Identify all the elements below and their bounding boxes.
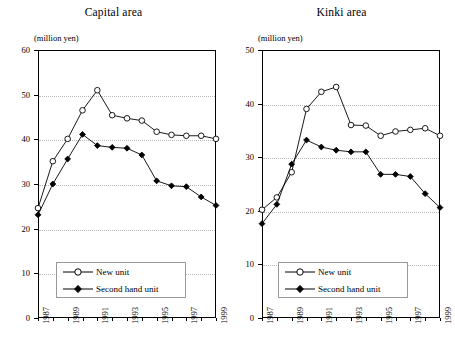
data-point-filled-diamond xyxy=(139,152,145,158)
series-layer-kinki-area xyxy=(228,0,455,352)
data-point-open-circle xyxy=(169,132,175,138)
data-point-open-circle xyxy=(408,127,414,133)
data-point-filled-diamond xyxy=(304,137,310,143)
data-point-open-circle xyxy=(259,207,265,213)
legend-label-second-hand-unit: Second hand unit xyxy=(318,284,381,294)
data-point-open-circle xyxy=(437,133,443,139)
chart-panel-kinki-area: Kinki area (million yen) 010203040501987… xyxy=(228,0,455,352)
data-point-filled-diamond xyxy=(318,144,324,150)
data-point-filled-diamond xyxy=(393,171,399,177)
data-point-open-circle xyxy=(213,136,219,142)
data-point-filled-diamond xyxy=(154,178,160,184)
data-point-open-circle xyxy=(154,129,160,135)
data-point-filled-diamond xyxy=(109,144,115,150)
chart-panel-capital-area: Capital area (million yen) 0102030405060… xyxy=(0,0,227,352)
data-point-open-circle xyxy=(80,108,86,114)
legend-kinki-area: New unit Second hand unit xyxy=(278,262,408,298)
series-layer-capital-area xyxy=(0,0,227,352)
legend-label-new-unit: New unit xyxy=(318,267,351,277)
open-circle-marker-icon xyxy=(63,266,93,278)
legend-item-new-unit[interactable]: New unit xyxy=(279,263,407,280)
data-point-filled-diamond xyxy=(50,181,56,187)
data-point-open-circle xyxy=(348,122,354,128)
data-point-filled-diamond xyxy=(169,183,175,189)
data-point-filled-diamond xyxy=(35,212,41,218)
figure-root: Capital area (million yen) 0102030405060… xyxy=(0,0,455,352)
legend-item-second-hand-unit[interactable]: Second hand unit xyxy=(57,280,185,297)
data-point-open-circle xyxy=(198,133,204,139)
data-point-open-circle xyxy=(124,116,130,122)
data-point-open-circle xyxy=(363,123,369,129)
data-point-filled-diamond xyxy=(124,145,130,151)
data-point-open-circle xyxy=(378,133,384,139)
data-point-filled-diamond xyxy=(348,149,354,155)
data-point-open-circle xyxy=(139,118,145,124)
data-point-open-circle xyxy=(393,129,399,135)
data-point-filled-diamond xyxy=(363,149,369,155)
open-circle-marker-icon xyxy=(285,266,315,278)
data-point-open-circle xyxy=(95,87,101,93)
data-point-filled-diamond xyxy=(65,156,71,162)
data-point-filled-diamond xyxy=(198,194,204,200)
legend-label-second-hand-unit: Second hand unit xyxy=(96,284,159,294)
series-second-hand-unit xyxy=(259,137,443,226)
data-point-open-circle xyxy=(184,133,190,139)
filled-diamond-marker-icon xyxy=(285,283,315,295)
filled-diamond-marker-icon xyxy=(63,283,93,295)
data-point-filled-diamond xyxy=(378,171,384,177)
data-point-filled-diamond xyxy=(183,184,189,190)
data-point-open-circle xyxy=(109,112,115,118)
data-point-open-circle xyxy=(65,136,71,142)
data-point-filled-diamond xyxy=(333,147,339,153)
data-point-filled-diamond xyxy=(213,203,219,209)
legend-capital-area: New unit Second hand unit xyxy=(56,262,186,298)
legend-item-second-hand-unit[interactable]: Second hand unit xyxy=(279,280,407,297)
series-second-hand-unit xyxy=(35,132,219,218)
data-point-open-circle xyxy=(422,125,428,131)
data-point-open-circle xyxy=(50,158,56,164)
data-point-open-circle xyxy=(304,106,310,112)
legend-item-new-unit[interactable]: New unit xyxy=(57,263,185,280)
data-point-open-circle xyxy=(319,89,325,95)
data-point-open-circle xyxy=(333,84,339,90)
legend-label-new-unit: New unit xyxy=(96,267,129,277)
